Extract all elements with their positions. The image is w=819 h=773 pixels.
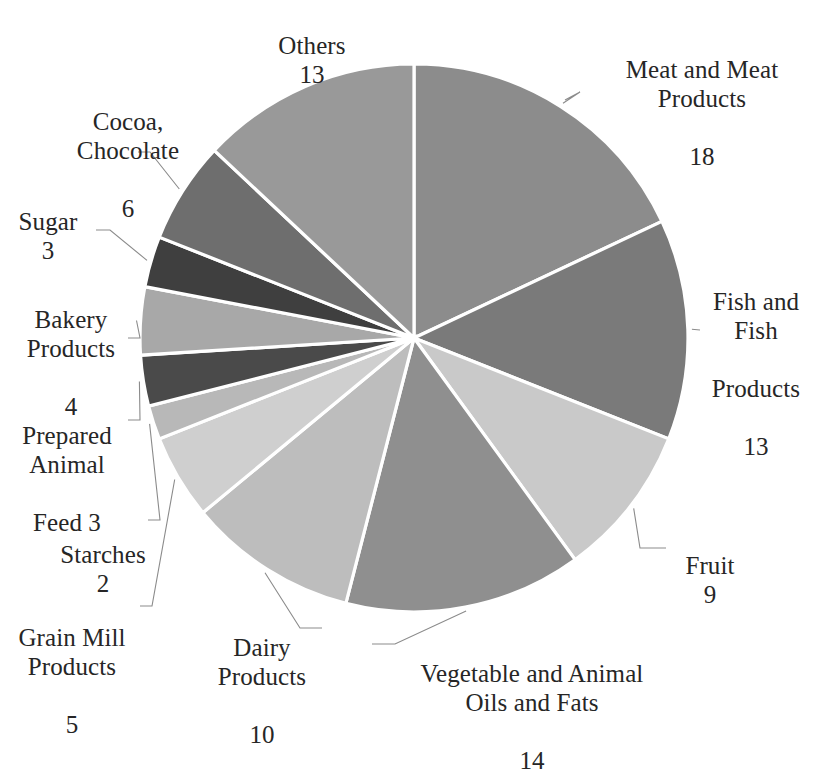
leader-line [563,92,580,103]
pie-label-bakery-line2: Products [4,334,138,363]
pie-label-prepared-animal-feed-line2: Animal [0,450,134,479]
pie-label-prepared-animal-feed-line3: Feed 3 [0,508,134,537]
pie-label-fish-line2: Fish [694,316,818,345]
pie-label-dairy: Dairy Products 10 [196,604,328,773]
pie-label-vegetable-oils-line1: Vegetable and Animal [421,660,644,687]
pie-label-meat-line2: Products [588,84,816,113]
pie-label-dairy-value: 10 [196,720,328,749]
pie-label-grain-mill-line2: Products [0,652,144,681]
pie-label-fish: Fish and Fish Products 13 [694,258,818,490]
pie-label-fruit-name: Fruit [685,552,734,579]
pie-label-cocoa: Cocoa, Chocolate 6 [48,78,208,252]
pie-label-others-name: Others [278,32,345,59]
pie-label-grain-mill-line1: Grain Mill [18,624,125,651]
pie-label-fruit-value: 9 [652,580,768,609]
pie-label-bakery: Bakery Products 4 [4,276,138,450]
pie-label-vegetable-oils-line2: Oils and Fats [382,688,682,717]
pie-label-bakery-value: 4 [4,392,138,421]
pie-label-meat-value: 18 [588,142,816,171]
pie-label-starches-value: 2 [34,569,172,598]
pie-label-others-value: 13 [222,60,402,89]
pie-label-grain-mill-value: 5 [0,710,144,739]
pie-label-fruit: Fruit 9 [652,522,768,638]
pie-label-meat: Meat and Meat Products 18 [588,26,816,200]
pie-label-fish-line1: Fish and [713,288,799,315]
pie-label-dairy-line2: Products [196,662,328,691]
pie-label-vegetable-oils: Vegetable and Animal Oils and Fats 14 [382,630,682,773]
pie-label-cocoa-line2: Chocolate [48,136,208,165]
pie-label-vegetable-oils-value: 14 [382,746,682,773]
pie-label-others: Others 13 [222,2,402,118]
pie-label-cocoa-value: 6 [48,194,208,223]
pie-label-meat-line1: Meat and Meat [626,56,779,83]
pie-label-fish-value: 13 [694,432,818,461]
pie-label-bakery-line1: Bakery [35,306,108,333]
pie-label-dairy-line1: Dairy [233,634,290,661]
pie-label-cocoa-line1: Cocoa, [93,108,164,135]
pie-label-fish-line3: Products [694,374,818,403]
